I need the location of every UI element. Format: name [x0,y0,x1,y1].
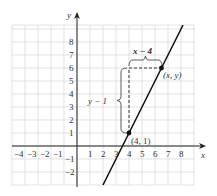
rise-label: y − 1 [87,96,107,106]
y-tick: −1 [65,154,75,164]
rise-brace-icon [117,68,127,133]
x-tick: 8 [179,149,184,159]
y-tick: 6 [69,63,74,73]
graph-canvas: x y −4 −3 −2 −1 1 2 3 4 5 6 7 8 1 2 3 4 … [0,0,217,196]
point-x-y-label: (x, y) [163,70,181,80]
x-tick: 5 [140,149,145,159]
run-label: x − 4 [132,46,152,56]
y-tick: 8 [69,37,74,47]
x-tick: −2 [40,149,50,159]
point-4-1 [127,131,132,136]
x-tick: 6 [153,149,158,159]
x-axis-label: x [200,150,205,160]
y-tick: 7 [69,50,74,60]
x-tick: 7 [166,149,171,159]
coordinate-plane-diagram: x y −4 −3 −2 −1 1 2 3 4 5 6 7 8 1 2 3 4 … [0,0,217,196]
y-tick: −2 [65,167,75,177]
x-tick: 4 [127,149,132,159]
y-axis-label: y [66,10,71,20]
x-tick-labels: −4 −3 −2 −1 1 2 3 4 5 6 7 8 [14,149,184,159]
y-tick: 2 [69,115,74,125]
point-4-1-label: (4, 1) [131,136,151,146]
x-tick: 1 [88,149,93,159]
x-tick: −4 [14,149,24,159]
x-tick: −1 [53,149,63,159]
y-tick: 1 [69,128,74,138]
run-brace-icon [129,56,162,66]
x-tick: −3 [27,149,37,159]
y-tick: 3 [69,102,74,112]
y-tick: 5 [69,76,74,86]
x-tick: 2 [101,149,106,159]
y-tick: 4 [69,89,74,99]
